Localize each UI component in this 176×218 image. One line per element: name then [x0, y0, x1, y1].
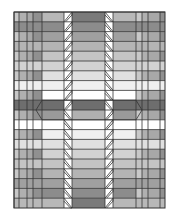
strip-cell — [142, 12, 148, 22]
strip-cell — [160, 41, 165, 51]
strip-cell — [19, 81, 27, 91]
band-cell — [42, 90, 64, 100]
strip-cell — [142, 139, 148, 149]
center-cell — [72, 198, 105, 208]
strip-cell — [19, 61, 27, 71]
center-cell — [72, 130, 105, 140]
center-cell — [72, 159, 105, 169]
strip-cell — [27, 159, 33, 169]
strip-cell — [136, 120, 142, 130]
strip-cell — [27, 81, 33, 91]
strip-cell — [148, 188, 160, 198]
strip-cell — [33, 61, 42, 71]
band-cell — [113, 51, 136, 61]
strip-cell — [142, 159, 148, 169]
strip-cell — [148, 71, 160, 81]
strip-cell — [33, 179, 42, 189]
strip-cell — [33, 32, 42, 42]
strip-cell — [142, 90, 148, 100]
strip-cell — [160, 110, 165, 120]
strip-cell — [14, 100, 19, 110]
band-cell — [113, 22, 136, 32]
strip-cell — [27, 179, 33, 189]
strip-cell — [148, 22, 160, 32]
strip-cell — [14, 198, 19, 208]
band-cell — [113, 32, 136, 42]
band-cell — [42, 81, 64, 91]
strip-cell — [27, 149, 33, 159]
band-cell — [113, 139, 136, 149]
strip-cell — [19, 71, 27, 81]
strip-cell — [148, 149, 160, 159]
strip-cell — [27, 41, 33, 51]
strip-cell — [33, 22, 42, 32]
strip-cell — [136, 71, 142, 81]
strip-cell — [142, 198, 148, 208]
strip-cell — [27, 51, 33, 61]
strip-cell — [148, 41, 160, 51]
strip-cell — [27, 12, 33, 22]
strip-cell — [27, 169, 33, 179]
strip-cell — [19, 41, 27, 51]
center-cell — [72, 149, 105, 159]
strip-cell — [148, 139, 160, 149]
strip-cell — [160, 188, 165, 198]
strip-cell — [14, 188, 19, 198]
strip-cell — [148, 198, 160, 208]
center-cell — [72, 22, 105, 32]
strip-cell — [142, 22, 148, 32]
strip-cell — [136, 139, 142, 149]
band-cell — [113, 149, 136, 159]
strip-cell — [19, 149, 27, 159]
strip-cell — [142, 81, 148, 91]
strip-cell — [160, 100, 165, 110]
strip-cell — [19, 139, 27, 149]
strip-cell — [14, 41, 19, 51]
strip-cell — [136, 22, 142, 32]
strip-cell — [148, 120, 160, 130]
strip-cell — [148, 32, 160, 42]
band-cell — [113, 61, 136, 71]
strip-cell — [136, 41, 142, 51]
band-cell — [42, 32, 64, 42]
strip-cell — [33, 149, 42, 159]
strip-cell — [136, 159, 142, 169]
strip-cell — [142, 32, 148, 42]
band-cell — [42, 41, 64, 51]
strip-cell — [27, 110, 33, 120]
strip-cell — [19, 110, 27, 120]
band-cell — [42, 159, 64, 169]
strip-cell — [19, 130, 27, 140]
band-cell — [42, 169, 64, 179]
band-cell — [42, 188, 64, 198]
strip-cell — [19, 120, 27, 130]
center-cell — [72, 120, 105, 130]
strip-cell — [160, 90, 165, 100]
strip-cell — [142, 169, 148, 179]
strip-cell — [142, 100, 148, 110]
strip-cell — [148, 90, 160, 100]
strip-cell — [27, 22, 33, 32]
strip-cell — [33, 188, 42, 198]
center-cell — [72, 61, 105, 71]
band-cell — [42, 51, 64, 61]
strip-cell — [160, 22, 165, 32]
strip-cell — [142, 61, 148, 71]
band-cell — [113, 110, 136, 120]
strip-cell — [160, 120, 165, 130]
strip-cell — [14, 169, 19, 179]
band-cell — [42, 179, 64, 189]
strip-cell — [33, 139, 42, 149]
strip-cell — [33, 130, 42, 140]
strip-cell — [14, 51, 19, 61]
strip-cell — [14, 22, 19, 32]
center-cell — [72, 90, 105, 100]
center-cell — [72, 41, 105, 51]
strip-cell — [148, 169, 160, 179]
band-cell — [113, 41, 136, 51]
band-cell — [113, 179, 136, 189]
strip-cell — [148, 159, 160, 169]
strip-cell — [160, 81, 165, 91]
strip-cell — [148, 81, 160, 91]
strip-cell — [14, 32, 19, 42]
